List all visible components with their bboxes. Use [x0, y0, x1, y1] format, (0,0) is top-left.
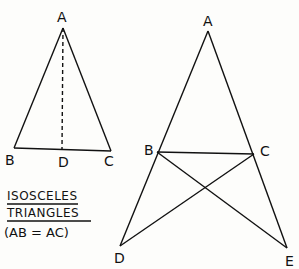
segment-bc: [157, 152, 254, 154]
left-triangle: A B D C: [5, 9, 114, 170]
right-figure: A B C D E: [114, 13, 294, 269]
caption-line3: (AB = AC): [4, 225, 69, 240]
label-a: A: [57, 9, 67, 25]
label-c: C: [260, 143, 270, 159]
line-ae: [208, 31, 287, 248]
side-ac: [63, 28, 111, 151]
caption-line2: TRIANGLES: [6, 206, 79, 220]
caption-line1: ISOSCELES: [7, 189, 78, 203]
label-c: C: [104, 153, 114, 169]
isosceles-triangles-diagram: A B D C A B C D E ISOSCELES TRIANGLES (A…: [0, 0, 299, 269]
label-d: D: [58, 154, 69, 170]
side-ab: [14, 28, 63, 148]
label-d: D: [114, 250, 125, 266]
line-ad: [120, 31, 208, 246]
segment-be: [157, 152, 287, 248]
label-e: E: [285, 253, 294, 269]
segment-cd: [120, 154, 254, 246]
label-b: B: [144, 142, 154, 158]
label-b: B: [5, 152, 15, 168]
label-a: A: [203, 13, 213, 29]
median-ad: [62, 28, 63, 149]
caption: ISOSCELES TRIANGLES (AB = AC): [4, 189, 91, 240]
